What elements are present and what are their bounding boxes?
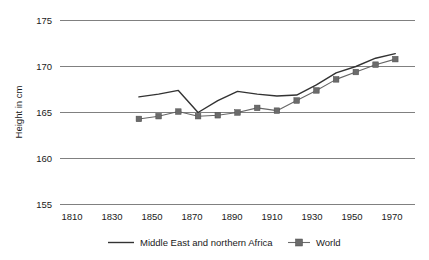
x-tick-label-1950: 1950: [341, 211, 362, 222]
plot-series: [136, 54, 398, 122]
x-tick-label-1870: 1870: [181, 211, 202, 222]
data-point-marker: [294, 98, 300, 104]
x-tick-label-1890: 1890: [221, 211, 242, 222]
data-point-marker: [353, 69, 359, 75]
y-tick-label-175: 175: [36, 15, 52, 26]
legend-label-world: World: [316, 237, 341, 248]
data-point-marker: [274, 108, 280, 114]
y-tick-label-170: 170: [36, 61, 52, 72]
legend: Middle East and northern Africa World: [108, 237, 341, 248]
chart-svg: 175 170 165 160 155 Height in cm 1810 18…: [0, 0, 429, 260]
x-tick-label-1810: 1810: [61, 211, 82, 222]
x-tick-label-1930: 1930: [301, 211, 322, 222]
y-tick-label-160: 160: [36, 153, 52, 164]
data-point-marker: [314, 88, 320, 94]
data-point-marker: [215, 112, 221, 118]
data-point-marker: [136, 116, 142, 122]
data-point-marker: [195, 113, 201, 119]
x-tick-label-1910: 1910: [261, 211, 282, 222]
y-tick-label-165: 165: [36, 107, 52, 118]
data-point-marker: [156, 113, 162, 119]
x-tick-label-1970: 1970: [381, 211, 402, 222]
y-tick-label-155: 155: [36, 199, 52, 210]
data-point-marker: [392, 56, 398, 62]
data-point-marker: [235, 110, 241, 116]
series-line-middle-east-and-northern-africa: [139, 54, 395, 113]
data-point-marker: [373, 62, 379, 68]
legend-swatch-world-marker: [296, 239, 303, 246]
data-point-marker: [176, 109, 182, 115]
y-axis-title: Height in cm: [13, 86, 24, 139]
data-point-marker: [333, 77, 339, 83]
chart-container: 175 170 165 160 155 Height in cm 1810 18…: [0, 0, 429, 260]
x-tick-label-1850: 1850: [141, 211, 162, 222]
x-tick-label-1830: 1830: [101, 211, 122, 222]
legend-label-middle-east-and-northern-africa: Middle East and northern Africa: [140, 237, 273, 248]
x-axis-tick-labels: 1810 1830 1850 1870 1890 1910 1930 1950 …: [61, 211, 402, 222]
y-axis-tick-labels: 175 170 165 160 155: [36, 15, 52, 210]
data-point-marker: [254, 105, 260, 111]
